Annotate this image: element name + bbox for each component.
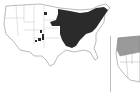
us-map-left bbox=[0, 0, 112, 68]
us-map-left-svg bbox=[0, 0, 112, 68]
panel-divider bbox=[110, 36, 111, 92]
shaded-patch bbox=[38, 38, 41, 41]
shaded-patch bbox=[44, 12, 47, 15]
shaded-patch bbox=[35, 40, 37, 42]
us-map-right bbox=[112, 34, 140, 84]
shaded-patch bbox=[40, 30, 42, 33]
shaded-patch bbox=[42, 34, 44, 40]
us-map-right-svg bbox=[112, 34, 140, 84]
